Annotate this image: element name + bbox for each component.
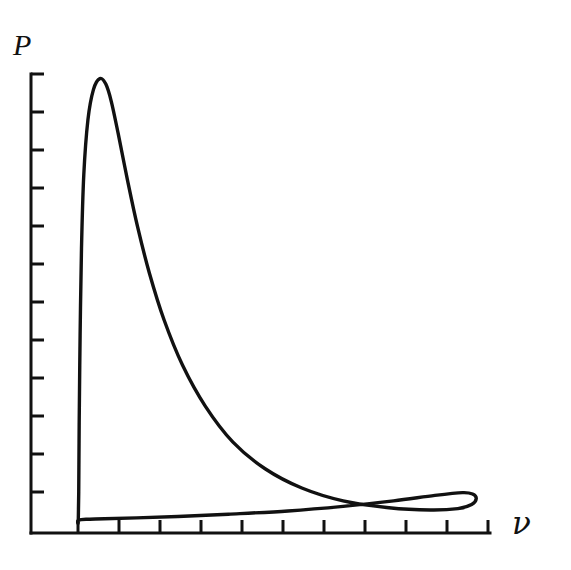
- x-axis-ticks: [78, 520, 488, 533]
- data-curves-group: [78, 78, 477, 523]
- y-axis-ticks: [31, 74, 44, 492]
- pv-loop-curve: [78, 78, 477, 523]
- plot-canvas: [0, 0, 571, 570]
- x-axis-label: ν: [512, 508, 531, 539]
- y-axis-label: P: [13, 30, 31, 60]
- pv-diagram-figure: P ν: [0, 0, 571, 570]
